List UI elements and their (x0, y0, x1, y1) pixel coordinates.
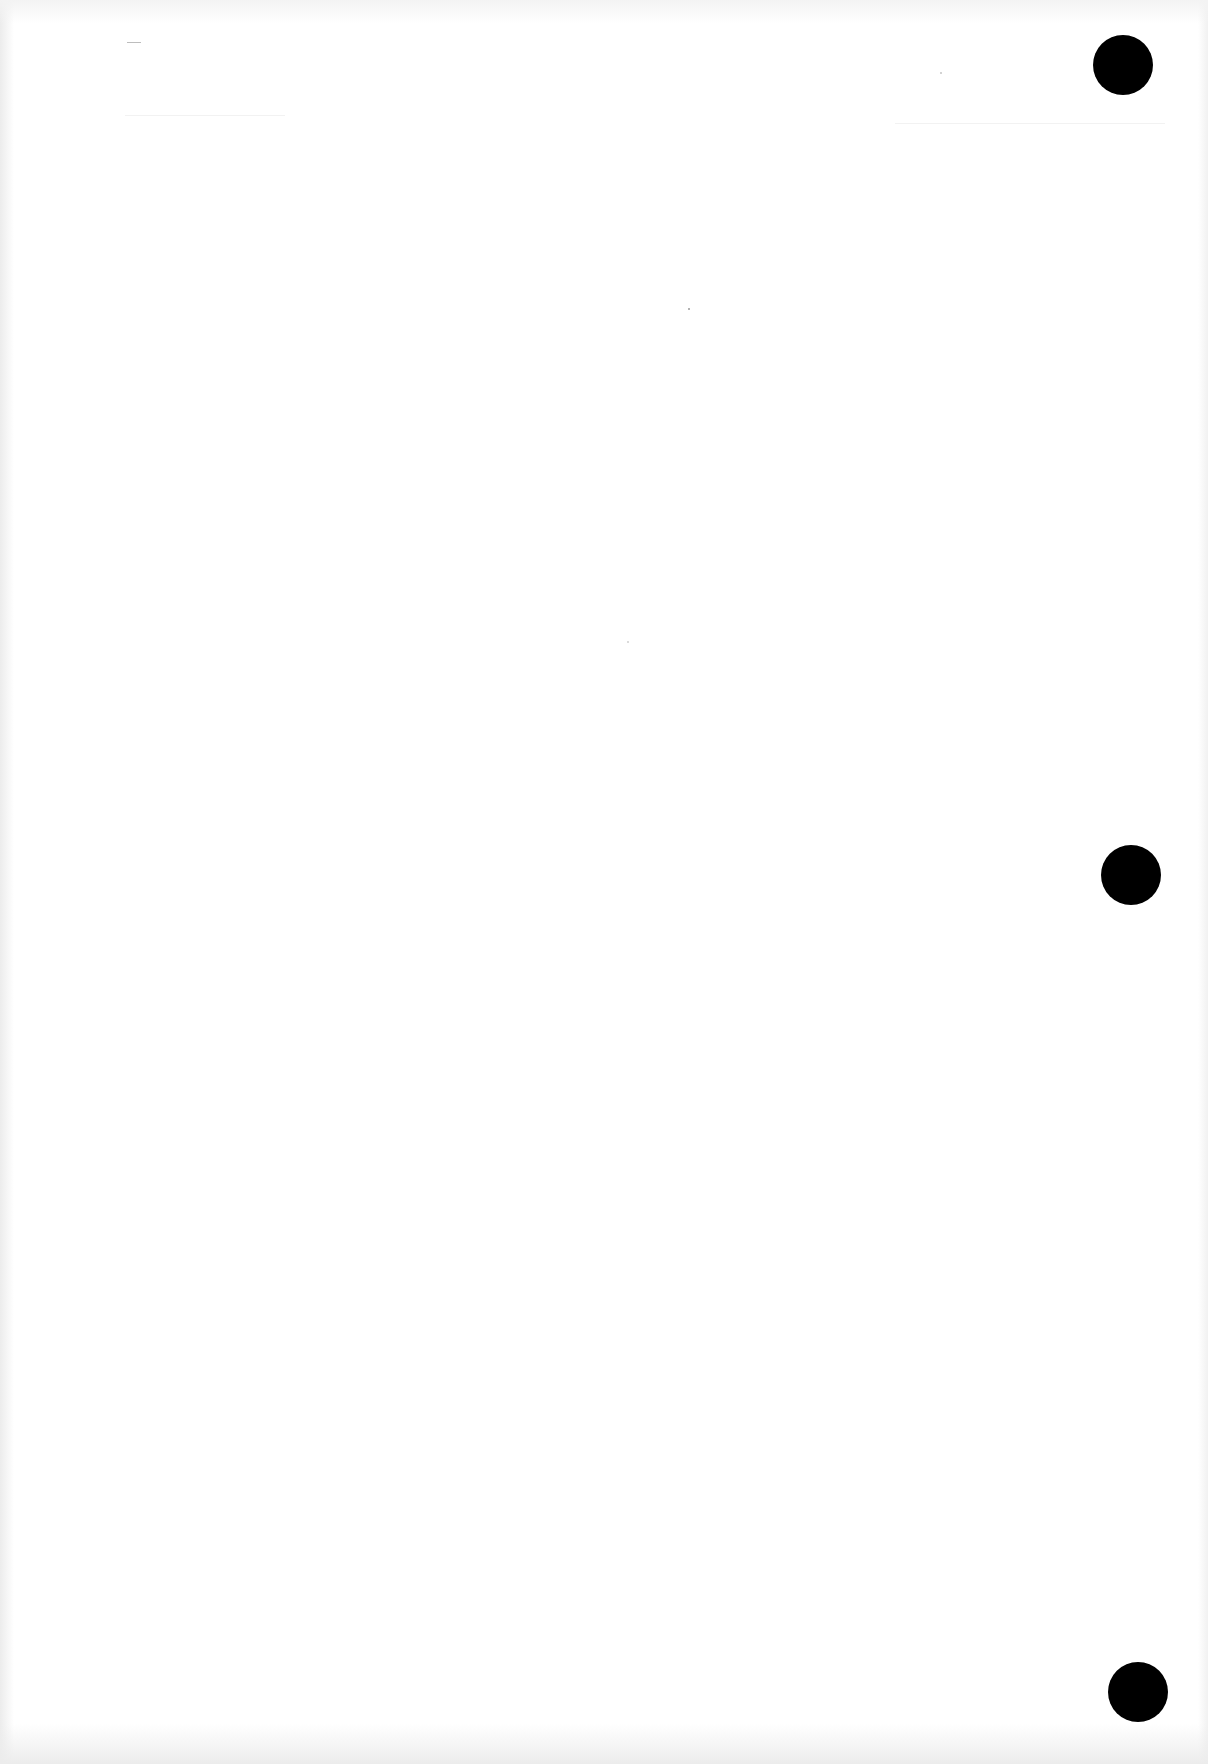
scan-speck (627, 641, 629, 643)
scan-edge-bottom (0, 1724, 1208, 1764)
faint-rule-left (125, 115, 285, 116)
blank-scanned-page (0, 0, 1208, 1764)
scan-edge-left (0, 0, 14, 1764)
punch-hole-top-icon (1093, 35, 1153, 95)
scan-mark (127, 42, 141, 43)
scan-speck (940, 72, 942, 74)
faint-rule-right (895, 123, 1165, 124)
scan-speck (688, 308, 690, 310)
scan-edge-right (1198, 0, 1208, 1764)
punch-hole-middle-icon (1101, 845, 1161, 905)
punch-hole-bottom-icon (1108, 1662, 1168, 1722)
scan-edge-top (0, 0, 1208, 24)
